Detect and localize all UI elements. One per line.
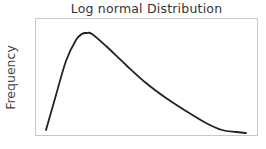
- plot-frame: [36, 19, 258, 136]
- plot-area: [0, 0, 266, 149]
- lognormal-curve: [46, 33, 246, 133]
